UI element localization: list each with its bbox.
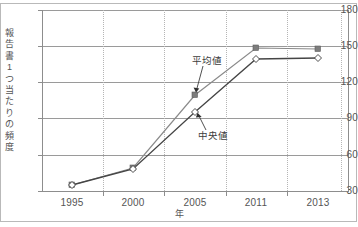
series-line-mean [72, 48, 318, 185]
annotation-leader-median [199, 115, 207, 130]
annotation-label-mean: 平均値 [192, 55, 222, 66]
chart-figure: 報 告 書 1 つ 当 た り の 頻 度 180 150 120 90 60 … [0, 0, 358, 227]
annotation-label-median: 中央値 [198, 130, 228, 141]
data-point-mean-2011 [253, 45, 259, 51]
annotation-leader-mean [197, 66, 204, 90]
series-line-median [72, 58, 318, 185]
data-point-mean-2013 [315, 46, 321, 52]
data-point-mean-2005 [192, 92, 198, 98]
series-layer [0, 0, 358, 227]
data-point-median-2013 [315, 55, 322, 62]
